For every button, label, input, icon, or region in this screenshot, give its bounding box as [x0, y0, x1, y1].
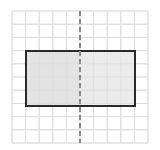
- symmetry-figure: [0, 0, 160, 150]
- figure-canvas: [0, 0, 160, 150]
